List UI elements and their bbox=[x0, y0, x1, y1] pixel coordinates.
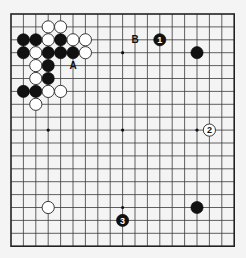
white-stone-icon bbox=[67, 34, 79, 46]
black-stone-icon bbox=[55, 47, 67, 59]
white-stone-icon bbox=[55, 21, 67, 33]
black-stone-icon bbox=[191, 201, 203, 213]
black-stone-move-1: 1 bbox=[154, 34, 166, 46]
white-stone-icon bbox=[55, 85, 67, 97]
black-stone-icon bbox=[42, 47, 54, 59]
black-stone-icon bbox=[30, 34, 42, 46]
star-point bbox=[121, 51, 124, 54]
white-stone-icon bbox=[79, 34, 91, 46]
white-stone-icon bbox=[30, 47, 42, 59]
black-stone bbox=[191, 47, 203, 59]
white-stone bbox=[55, 85, 67, 97]
black-stone-icon bbox=[42, 60, 54, 72]
go-board-diagram: AB 123 bbox=[0, 0, 246, 258]
white-stone bbox=[30, 47, 42, 59]
white-stone-icon bbox=[42, 201, 54, 213]
white-stone bbox=[55, 21, 67, 33]
black-stone bbox=[67, 47, 79, 59]
white-stone bbox=[42, 201, 54, 213]
white-stone bbox=[42, 21, 54, 33]
star-point bbox=[47, 129, 50, 132]
black-stone bbox=[55, 47, 67, 59]
black-stone bbox=[17, 85, 29, 97]
black-stone-icon bbox=[67, 47, 79, 59]
black-stone-icon bbox=[17, 34, 29, 46]
white-stone bbox=[67, 34, 79, 46]
move-number: 2 bbox=[207, 125, 212, 135]
white-stone bbox=[30, 60, 42, 72]
black-stone bbox=[191, 201, 203, 213]
white-stone bbox=[30, 72, 42, 84]
white-stone-icon bbox=[30, 98, 42, 110]
black-stone bbox=[30, 85, 42, 97]
black-stone bbox=[55, 34, 67, 46]
white-stone-icon bbox=[42, 34, 54, 46]
star-point bbox=[195, 129, 198, 132]
move-number: 3 bbox=[120, 216, 125, 226]
black-stone-icon bbox=[17, 47, 29, 59]
black-stone-icon bbox=[55, 34, 67, 46]
white-stone-icon bbox=[42, 21, 54, 33]
black-stone-icon bbox=[191, 47, 203, 59]
black-stone-icon bbox=[17, 85, 29, 97]
black-stone-icon bbox=[42, 72, 54, 84]
black-stone bbox=[30, 34, 42, 46]
white-stone-move-2: 2 bbox=[203, 124, 215, 136]
white-stone-icon bbox=[42, 85, 54, 97]
black-stone bbox=[42, 60, 54, 72]
go-board: AB 123 bbox=[0, 0, 246, 258]
white-stone bbox=[79, 34, 91, 46]
black-stone bbox=[42, 72, 54, 84]
black-stone bbox=[17, 34, 29, 46]
black-stone-icon bbox=[30, 85, 42, 97]
point-label-b: B bbox=[131, 34, 138, 45]
move-number: 1 bbox=[157, 35, 162, 45]
star-point bbox=[121, 206, 124, 209]
black-stone-move-3: 3 bbox=[117, 214, 129, 226]
star-point bbox=[121, 129, 124, 132]
white-stone-icon bbox=[79, 47, 91, 59]
white-stone-icon bbox=[30, 72, 42, 84]
white-stone bbox=[79, 47, 91, 59]
white-stone-icon bbox=[30, 60, 42, 72]
stones-layer: 123 bbox=[17, 21, 215, 227]
white-stone bbox=[30, 98, 42, 110]
white-stone bbox=[42, 34, 54, 46]
white-stone bbox=[42, 85, 54, 97]
black-stone bbox=[42, 47, 54, 59]
black-stone bbox=[17, 47, 29, 59]
point-label-a: A bbox=[69, 60, 76, 71]
